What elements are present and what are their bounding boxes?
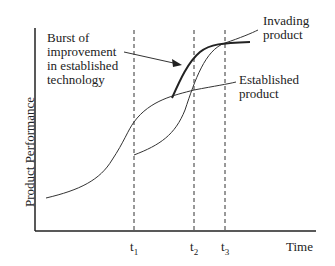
- burst-label: Burst of improvement in established tech…: [47, 31, 118, 87]
- diagram-root: Product Performance Burst of improvement…: [0, 0, 335, 266]
- invading-line-1: Invading: [263, 14, 309, 28]
- established-line-2: product: [239, 87, 299, 101]
- tick-t3: t3: [221, 240, 229, 259]
- burst-line-1: Burst of: [47, 31, 118, 45]
- invading-label: Invading product: [263, 14, 309, 42]
- burst-arrow: [124, 52, 178, 64]
- burst-line-2: improvement: [47, 45, 118, 59]
- arrow-head-icon: [172, 59, 182, 67]
- tick-t1: t1: [130, 240, 138, 259]
- invading-line-2: product: [263, 28, 309, 42]
- established-label: Established product: [239, 73, 299, 101]
- established-curve: [46, 82, 236, 198]
- x-axis-label: Time: [286, 240, 313, 254]
- y-axis-label: Product Performance: [22, 92, 38, 212]
- burst-line-4: technology: [47, 73, 118, 87]
- burst-line-3: in established: [47, 59, 118, 73]
- established-line-1: Established: [239, 73, 299, 87]
- tick-t2: t2: [190, 240, 198, 259]
